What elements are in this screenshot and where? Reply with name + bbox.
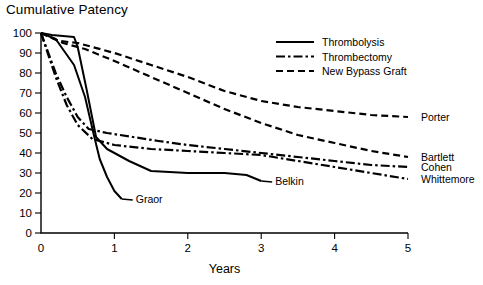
figure-cumulative-patency: Cumulative Patency 010203040506070809010… <box>0 0 483 285</box>
chart-canvas: 0102030405060708090100012345Years Porter… <box>0 0 483 285</box>
y-tick-label: 0 <box>26 227 32 239</box>
x-tick-label: 4 <box>331 242 338 254</box>
x-tick-label: 2 <box>185 242 191 254</box>
chart-legend: ThrombolysisThrombectomyNew Bypass Graft <box>276 36 407 77</box>
y-tick-label: 100 <box>13 27 32 39</box>
series-annotation-porter: Porter <box>421 111 450 123</box>
series-annotation-graor: Graor <box>136 193 163 205</box>
y-tick-label: 70 <box>19 87 32 99</box>
figure-caption <box>0 274 483 285</box>
y-tick-label: 80 <box>19 67 32 79</box>
y-tick-label: 40 <box>19 147 32 159</box>
legend-label-thrombolysis: Thrombolysis <box>322 36 384 48</box>
series-annotation-belkin: Belkin <box>275 175 304 187</box>
y-tick-label: 30 <box>19 167 32 179</box>
x-tick-label: 5 <box>405 242 411 254</box>
x-tick-label: 3 <box>258 242 264 254</box>
y-tick-label: 50 <box>19 127 32 139</box>
legend-label-new-bypass-graft: New Bypass Graft <box>322 65 407 77</box>
series-line-belkin <box>41 33 261 181</box>
series-line-graor <box>41 33 122 199</box>
series-annotation-cohen: Cohen <box>421 161 452 173</box>
y-tick-label: 90 <box>19 47 32 59</box>
y-tick-label: 10 <box>19 207 32 219</box>
y-tick-label: 60 <box>19 107 32 119</box>
y-tick-label: 20 <box>19 187 32 199</box>
legend-label-thrombectomy: Thrombectomy <box>322 51 393 63</box>
x-tick-label: 1 <box>111 242 117 254</box>
series-annotation-whittemore: Whittemore <box>421 173 475 185</box>
x-tick-label: 0 <box>38 242 44 254</box>
